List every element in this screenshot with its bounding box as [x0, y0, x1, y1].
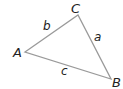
- vertex-label-c: C: [71, 1, 81, 16]
- triangle-figure: C A B b a c: [0, 0, 123, 89]
- side-label-c: c: [61, 64, 68, 78]
- vertex-label-b: B: [112, 75, 121, 89]
- side-label-b: b: [43, 19, 51, 33]
- triangle-shape: [25, 15, 111, 79]
- side-label-a: a: [94, 30, 101, 44]
- triangle-diagram: C A B b a c: [0, 0, 123, 89]
- vertex-label-a: A: [12, 45, 22, 60]
